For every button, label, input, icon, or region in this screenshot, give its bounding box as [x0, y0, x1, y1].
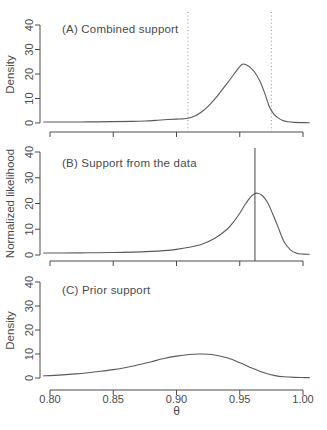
x-tick-label: 0.95	[229, 393, 250, 405]
panel-c-title: (C) Prior support	[62, 284, 150, 297]
y-tick-label: 10	[23, 223, 35, 235]
y-tick-label: 0	[23, 375, 35, 381]
density-curve	[44, 193, 310, 254]
y-tick-label: 40	[23, 19, 35, 31]
y-tick-label: 40	[23, 146, 35, 158]
y-tick-label: 30	[23, 172, 35, 184]
density-curve	[44, 354, 310, 378]
y-tick-label: 0	[23, 120, 35, 126]
y-tick-label: 10	[23, 92, 35, 104]
y-tick-label: 30	[23, 43, 35, 55]
three-panel-density-figure: 010203040 010203040 0102030400.800.850.9…	[0, 0, 327, 430]
x-tick-label: 0.80	[39, 393, 60, 405]
y-tick-label: 40	[23, 276, 35, 288]
x-tick-label: 0.85	[103, 393, 124, 405]
y-tick-label: 20	[23, 324, 35, 336]
panel-a-chart: 010203040	[0, 0, 327, 140]
density-curve	[44, 64, 310, 123]
panel-b-title: (B) Support from the data	[62, 157, 197, 170]
y-tick-label: 0	[23, 252, 35, 258]
panel-a-title: (A) Combined support	[62, 23, 179, 36]
y-tick-label: 30	[23, 300, 35, 312]
y-tick-label: 20	[23, 197, 35, 209]
panel-c-ylabel: Density	[4, 250, 17, 410]
x-tick-label: 1.00	[292, 393, 313, 405]
x-axis-label-theta: θ	[50, 405, 303, 418]
y-tick-label: 20	[23, 68, 35, 80]
y-tick-label: 10	[23, 348, 35, 360]
